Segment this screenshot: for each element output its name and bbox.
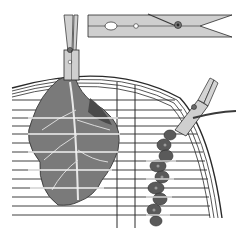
millet-spray [146, 130, 176, 226]
clothespin-left [64, 15, 79, 80]
clothespin-detail [88, 14, 232, 37]
illustration [0, 0, 248, 238]
cabbage-leaf [28, 77, 120, 205]
clothespin-right [175, 78, 236, 136]
